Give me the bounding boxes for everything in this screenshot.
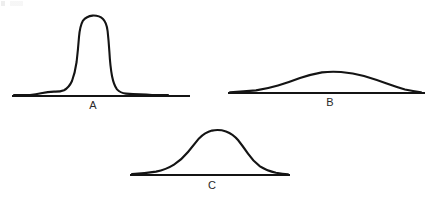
curve-label-c: C [208, 179, 216, 191]
curve-label-a: A [89, 99, 97, 111]
curve-label-b: B [326, 96, 334, 108]
distribution-group-c: C [130, 130, 290, 191]
distribution-curve-b [230, 72, 421, 93]
distribution-group-a: A [12, 16, 190, 111]
figure-canvas: A B C [0, 0, 438, 200]
distribution-curve-c [132, 130, 288, 174]
distribution-curve-a [14, 16, 168, 95]
distribution-group-b: B [228, 72, 425, 108]
distribution-figure: A B C [0, 0, 438, 200]
